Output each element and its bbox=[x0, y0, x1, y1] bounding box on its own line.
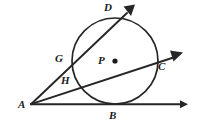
ray-ab-arrowhead-icon bbox=[180, 100, 188, 108]
label-point-d: D bbox=[104, 2, 112, 13]
ray-ad-secant-line bbox=[31, 13, 127, 104]
ray-ac-arrowhead-icon bbox=[170, 51, 183, 62]
label-point-g: G bbox=[55, 53, 63, 64]
label-point-a: A bbox=[18, 99, 25, 110]
label-point-p: P bbox=[98, 55, 105, 66]
center-point-dot bbox=[112, 58, 117, 63]
label-point-h: H bbox=[61, 75, 70, 86]
geometry-diagram: A B C D G H P bbox=[0, 0, 198, 127]
label-point-b: B bbox=[109, 110, 116, 121]
label-point-c: C bbox=[158, 61, 165, 72]
